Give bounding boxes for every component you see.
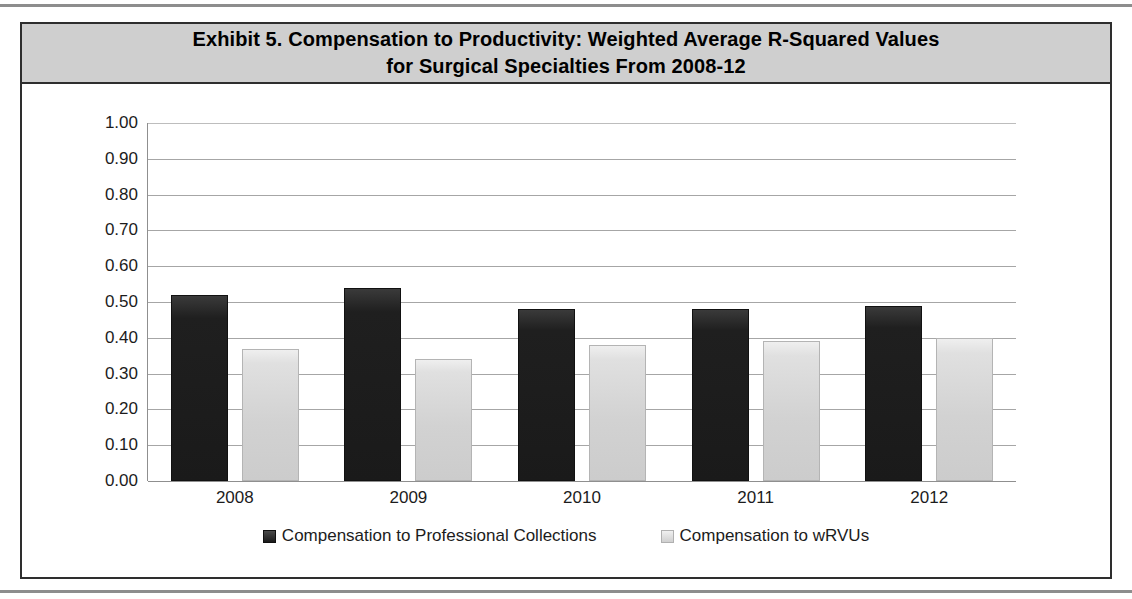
legend-swatch-icon-dark [263,530,276,543]
legend-label: Compensation to Professional Collections [282,526,597,546]
bar-2010-series-2 [589,345,646,481]
exhibit-title-line-1: Exhibit 5. Compensation to Productivity:… [193,28,940,50]
page-top-rule [0,4,1132,7]
chart-legend: Compensation to Professional Collections… [22,526,1110,546]
y-tick-label: 0.00 [68,471,138,491]
gridline [148,230,1016,231]
bar-2011-series-1 [692,309,749,481]
bar-2010-series-1 [518,309,575,481]
legend-item-1[interactable]: Compensation to Professional Collections [263,526,597,546]
bar-2012-series-2 [936,338,993,481]
x-tick-label-2009: 2009 [389,488,427,508]
legend-swatch-icon-light [661,530,674,543]
exhibit-title-line-2: for Surgical Specialties From 2008-12 [386,55,745,77]
x-tick-label-2011: 2011 [737,488,774,508]
legend-label: Compensation to wRVUs [680,526,870,546]
bar-2009-series-2 [415,359,472,481]
y-tick-label: 0.50 [68,292,138,312]
bar-2011-series-2 [763,341,820,481]
gridline [148,195,1016,196]
bar-2008-series-1 [171,295,228,481]
gridline [148,266,1016,267]
x-tick-label-2008: 2008 [216,488,254,508]
bar-2008-series-2 [242,349,299,481]
y-tick-label: 1.00 [68,113,138,133]
bar-2009-series-1 [344,288,401,481]
y-tick-label: 0.90 [68,149,138,169]
exhibit-title: Exhibit 5. Compensation to Productivity:… [153,26,980,80]
y-axis-tick-labels: 1.000.900.800.700.600.500.400.300.200.10… [58,123,138,481]
exhibit-title-bar: Exhibit 5. Compensation to Productivity:… [22,24,1110,84]
y-tick-label: 0.40 [68,328,138,348]
gridline [148,159,1016,160]
x-tick-label-2010: 2010 [563,488,601,508]
y-tick-label: 0.10 [68,435,138,455]
legend-item-2[interactable]: Compensation to wRVUs [661,526,870,546]
exhibit-frame: Exhibit 5. Compensation to Productivity:… [20,22,1112,579]
bar-2012-series-1 [865,306,922,481]
page-bottom-rule [0,590,1132,593]
exhibit-page: Exhibit 5. Compensation to Productivity:… [0,0,1132,599]
y-tick-label: 0.80 [68,185,138,205]
x-tick-label-2012: 2012 [910,488,948,508]
chart-area: 1.000.900.800.700.600.500.400.300.200.10… [22,84,1110,579]
y-tick-label: 0.30 [68,364,138,384]
gridline [148,302,1016,303]
y-tick-label: 0.20 [68,399,138,419]
gridline [148,481,1016,482]
y-tick-label: 0.70 [68,220,138,240]
y-tick-label: 0.60 [68,256,138,276]
plot-area [148,123,1016,481]
gridline [148,123,1016,124]
